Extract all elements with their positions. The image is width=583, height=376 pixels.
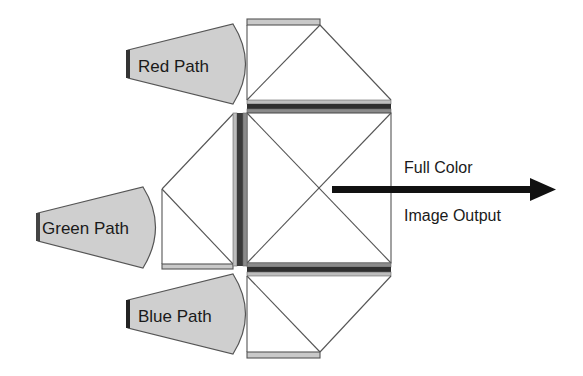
left-prism (162, 114, 233, 269)
bottom-prism (247, 276, 391, 358)
left-dichroic-filter (233, 113, 247, 266)
output-label-line2: Image Output (404, 207, 502, 224)
top-dichroic-filter (247, 100, 391, 113)
green-path-label: Green Path (42, 219, 129, 238)
bottom-dichroic-filter (247, 263, 391, 276)
prism-combiner-diagram: Red Path Green Path Blue Path (0, 0, 583, 376)
bottom-prism-strip (247, 352, 320, 358)
arrow-head-icon (530, 178, 556, 201)
blue-path-label: Blue Path (138, 307, 212, 326)
top-prism-strip (247, 19, 320, 25)
green-source-bar (36, 213, 40, 241)
blue-path-beam: Blue Path (126, 274, 246, 354)
blue-source-bar (126, 300, 130, 328)
output-label-line1: Full Color (404, 159, 473, 176)
top-prism (247, 19, 391, 100)
green-path-beam: Green Path (36, 187, 156, 268)
red-path-beam: Red Path (126, 24, 246, 104)
left-prism-strip (162, 264, 233, 269)
red-path-label: Red Path (138, 57, 209, 76)
arrow-shaft (332, 186, 532, 193)
red-source-bar (126, 50, 130, 78)
